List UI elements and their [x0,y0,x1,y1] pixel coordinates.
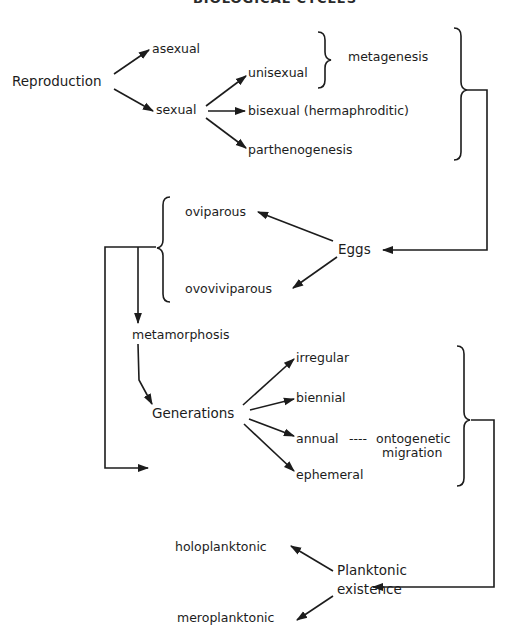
brace-generations-group [457,346,470,486]
arrow-planktonic-meroplanktonic [297,596,333,620]
dashed-link-annual-ontogenetic: ---- [349,432,367,446]
arrow-generations-annual [249,419,294,436]
node-ephemeral: ephemeral [296,468,363,482]
node-bisexual: bisexual (hermaphroditic) [248,104,409,118]
node-ovoviviparous: ovoviviparous [185,282,272,296]
node-biennial: biennial [296,391,346,405]
node-existence: existence [337,582,402,596]
arrow-reproduction-asexual [114,50,149,74]
node-migration: migration [382,446,442,460]
node-oviparous: oviparous [185,205,246,219]
node-unisexual: unisexual [248,66,308,80]
brace-metagenesis [318,32,331,88]
node-sexual: sexual [156,103,196,117]
node-parthenogenesis: parthenogenesis [248,143,353,157]
arrow-eggs-ovoviviparous [293,257,337,288]
arrow-sexual-unisexual [206,76,246,106]
node-ontogenetic: ontogenetic [376,432,451,446]
node-meroplanktonic: meroplanktonic [177,611,274,625]
brace-reproduction-group [454,28,467,160]
arrow-generations-ephemeral [244,424,294,471]
node-planktonic: Planktonic [337,563,407,577]
arrow-planktonic-holoplanktonic [291,546,333,571]
arrow-reproduction-sexual [114,89,153,111]
arrow-metamorphosis-generations [138,344,152,404]
node-reproduction: Reproduction [12,74,102,88]
arrow-generations-irregular [243,359,294,405]
brace-egg-group [157,197,170,302]
node-irregular: irregular [296,351,349,365]
connector-egg-group-left [105,247,156,468]
arrow-sexual-parthenogenesis [206,118,246,148]
node-holoplanktonic: holoplanktonic [175,540,267,554]
node-metagenesis: metagenesis [348,50,428,64]
node-eggs: Eggs [338,242,371,256]
node-asexual: asexual [152,42,200,56]
arrow-eggs-oviparous [258,212,333,241]
node-generations: Generations [152,406,234,420]
node-metamorphosis: metamorphosis [132,328,229,342]
node-annual: annual [296,432,339,446]
arrow-generations-biennial [250,399,294,410]
